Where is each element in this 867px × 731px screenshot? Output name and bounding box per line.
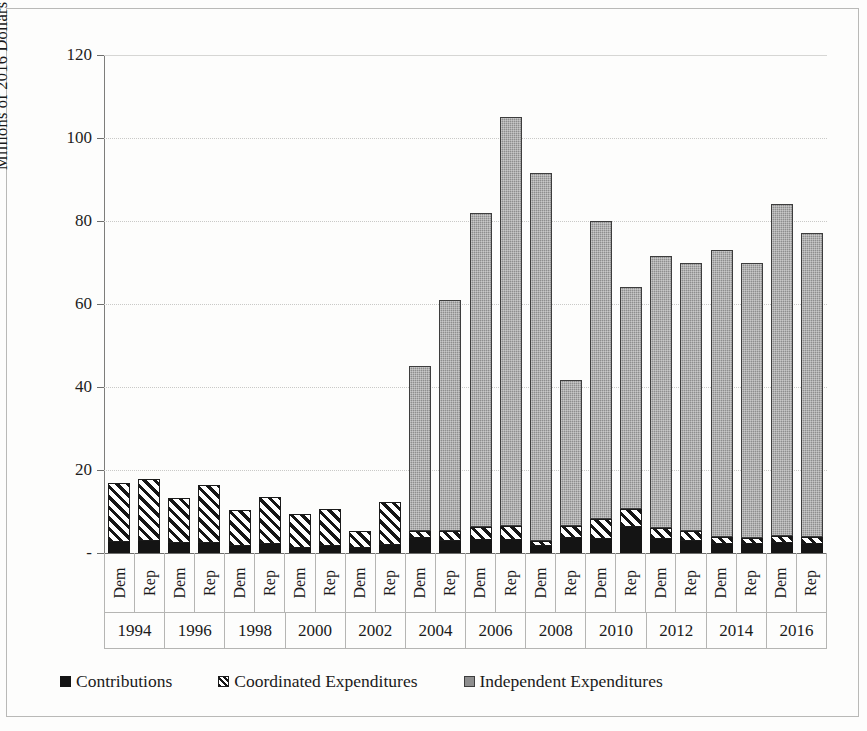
bar[interactable]	[198, 485, 220, 553]
segment-independent-expenditures	[530, 173, 552, 541]
bar-slot	[767, 55, 797, 553]
segment-coordinated-expenditures	[680, 531, 702, 541]
legend-item[interactable]: Contributions	[60, 671, 172, 692]
bar-slot	[737, 55, 767, 553]
segment-coordinated-expenditures	[801, 537, 823, 544]
y-tick-label: 80	[40, 212, 92, 229]
segment-independent-expenditures	[439, 300, 461, 531]
bar-group	[104, 55, 827, 553]
bar[interactable]	[108, 483, 130, 553]
x-axis-party-label: Dem	[471, 567, 489, 598]
bar[interactable]	[530, 173, 552, 553]
segment-coordinated-expenditures	[439, 531, 461, 541]
segment-contributions	[108, 542, 130, 553]
y-tick-label: 40	[40, 378, 92, 395]
segment-contributions	[259, 544, 281, 553]
bar[interactable]	[650, 256, 672, 553]
bar[interactable]	[801, 233, 823, 553]
bar[interactable]	[470, 213, 492, 553]
segment-coordinated-expenditures	[229, 510, 251, 545]
segment-contributions	[711, 544, 733, 553]
y-tick-mark	[97, 221, 104, 222]
y-tick-label: -	[40, 544, 92, 561]
bar[interactable]	[138, 479, 160, 553]
x-axis-party-label: Rep	[622, 570, 640, 596]
segment-independent-expenditures	[711, 250, 733, 537]
x-axis-party-label: Rep	[261, 570, 279, 596]
bar[interactable]	[349, 531, 371, 553]
x-axis-party-label: Rep	[562, 570, 580, 596]
segment-coordinated-expenditures	[259, 497, 281, 543]
bar[interactable]	[560, 380, 582, 553]
bar[interactable]	[439, 300, 461, 553]
segment-independent-expenditures	[560, 380, 582, 525]
bar[interactable]	[771, 204, 793, 553]
x-axis-party-label: Dem	[351, 567, 369, 598]
segment-coordinated-expenditures	[771, 536, 793, 544]
segment-coordinated-expenditures	[500, 526, 522, 540]
bar[interactable]	[319, 509, 341, 553]
x-axis-party-cell: Dem	[285, 553, 315, 613]
segment-coordinated-expenditures	[138, 479, 160, 542]
x-axis-year-label: 2010	[586, 613, 646, 649]
bar[interactable]	[590, 221, 612, 553]
bar[interactable]	[379, 502, 401, 553]
bar-slot	[556, 55, 586, 553]
x-axis-party-cell: Rep	[376, 553, 406, 613]
segment-contributions	[650, 539, 672, 553]
segment-contributions	[379, 545, 401, 553]
x-axis-year-label: 2000	[286, 613, 346, 649]
x-axis-party-label: Dem	[291, 567, 309, 598]
legend-item[interactable]: Independent Expenditures	[464, 671, 663, 692]
plot-area	[104, 55, 827, 553]
segment-independent-expenditures	[801, 233, 823, 537]
bar[interactable]	[289, 514, 311, 553]
x-axis-party-cell: Rep	[195, 553, 225, 613]
x-axis-year-label: 1996	[165, 613, 225, 649]
bar[interactable]	[229, 510, 251, 553]
segment-contributions	[439, 541, 461, 553]
bar[interactable]	[259, 497, 281, 553]
bar[interactable]	[409, 366, 431, 553]
y-tick-mark	[97, 55, 104, 56]
bar[interactable]	[711, 250, 733, 553]
x-axis-year-label: 1998	[225, 613, 285, 649]
bar[interactable]	[741, 263, 763, 553]
y-tick-mark	[97, 387, 104, 388]
y-tick-label: 100	[40, 129, 92, 146]
y-tick-mark	[97, 553, 104, 554]
x-axis-party-cell: Dem	[526, 553, 556, 613]
segment-contributions	[500, 540, 522, 553]
x-axis-party-cell: Dem	[466, 553, 496, 613]
segment-coordinated-expenditures	[620, 509, 642, 527]
x-axis-party-label: Dem	[592, 567, 610, 598]
chart-legend: ContributionsCoordinated ExpendituresInd…	[60, 666, 820, 696]
bar[interactable]	[680, 263, 702, 553]
bar[interactable]	[500, 117, 522, 553]
bar-slot	[315, 55, 345, 553]
bar[interactable]	[620, 287, 642, 553]
x-axis: DemRepDemRepDemRepDemRepDemRepDemRepDemR…	[104, 553, 827, 649]
segment-coordinated-expenditures	[590, 519, 612, 539]
x-axis-party-label: Dem	[231, 567, 249, 598]
bar[interactable]	[168, 498, 190, 553]
x-axis-year-label: 2016	[767, 613, 827, 649]
segment-coordinated-expenditures	[650, 528, 672, 540]
legend-item[interactable]: Coordinated Expenditures	[218, 671, 417, 692]
x-axis-year-label: 2008	[526, 613, 586, 649]
bar-slot	[285, 55, 315, 553]
x-axis-party-label: Rep	[141, 570, 159, 596]
x-axis-party-cell: Dem	[707, 553, 737, 613]
segment-contributions	[319, 546, 341, 553]
x-axis-year-label: 2006	[466, 613, 526, 649]
x-axis-party-label: Rep	[502, 570, 520, 596]
segment-contributions	[409, 538, 431, 553]
x-axis-party-label: Rep	[682, 570, 700, 596]
x-axis-party-label: Rep	[802, 570, 820, 596]
x-axis-year-label: 2004	[406, 613, 466, 649]
segment-contributions	[138, 541, 160, 553]
bar-slot	[676, 55, 706, 553]
bar-slot	[616, 55, 646, 553]
segment-coordinated-expenditures	[319, 509, 341, 546]
bar-slot	[375, 55, 405, 553]
